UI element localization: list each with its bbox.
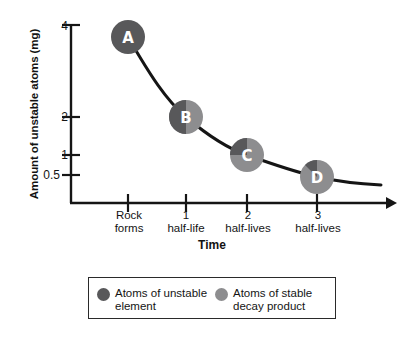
chart-figure: Amount of unstable atoms (mg) 4 2 1 0.5 … xyxy=(0,0,417,352)
legend-label-line1: Atoms of unstable xyxy=(115,287,207,300)
legend-label-line1: Atoms of stable xyxy=(233,287,312,300)
x-axis-arrow-icon xyxy=(386,197,397,209)
legend-item-unstable: Atoms of unstable element xyxy=(97,287,207,312)
data-point-d: D xyxy=(300,160,334,194)
legend-label-line2: decay product xyxy=(233,300,312,313)
data-point-c-label: C xyxy=(241,147,252,165)
data-point-d-label: D xyxy=(311,169,323,187)
legend-label-line2: element xyxy=(115,300,207,313)
legend-swatch-stable-icon xyxy=(215,288,228,301)
legend-label-unstable: Atoms of unstable element xyxy=(115,287,207,312)
legend: Atoms of unstable element Atoms of stabl… xyxy=(88,277,336,319)
legend-swatch-unstable-icon xyxy=(97,288,110,301)
legend-item-stable: Atoms of stable decay product xyxy=(215,287,312,312)
data-point-b-label: B xyxy=(180,109,191,127)
data-point-a-label: A xyxy=(122,29,134,47)
legend-label-stable: Atoms of stable decay product xyxy=(233,287,312,312)
data-point-b: B xyxy=(169,100,203,134)
data-point-c: C xyxy=(230,138,264,172)
data-point-a: A xyxy=(111,20,145,54)
